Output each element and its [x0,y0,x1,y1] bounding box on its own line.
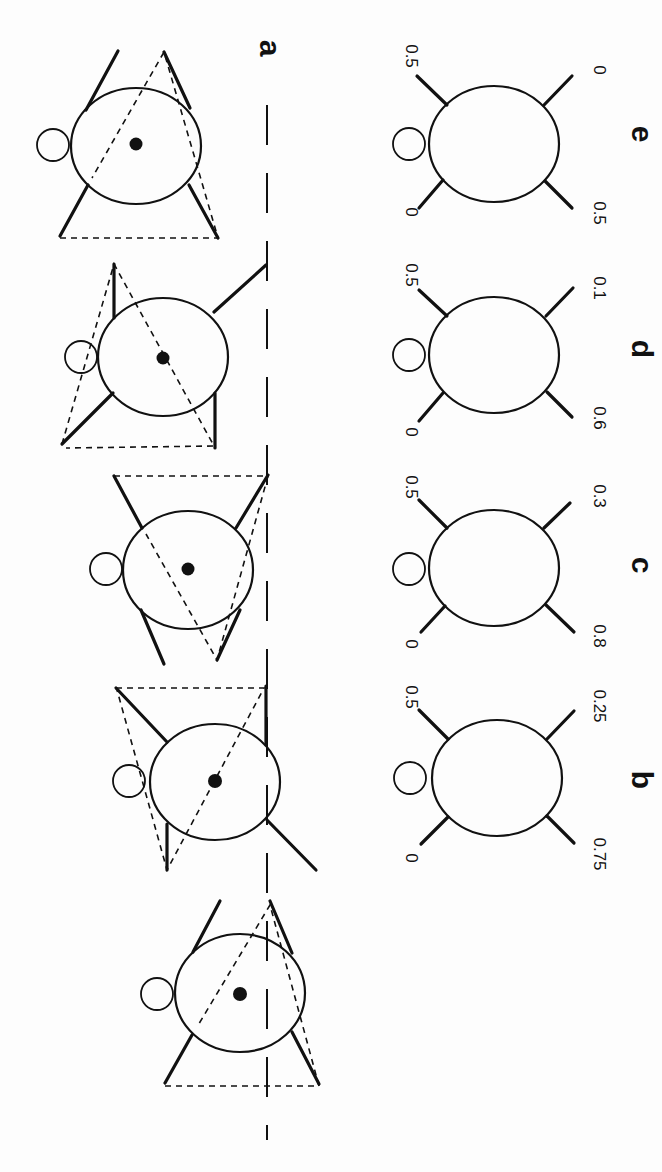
head-circle [394,762,426,794]
leg-value: 0 [402,639,421,648]
leg-value: 0.5 [590,201,609,225]
leg [292,1032,319,1084]
head-circle [393,128,425,160]
center-of-mass-dot [130,138,143,151]
head-circle [65,341,97,373]
support-triangle [116,688,264,870]
leg [547,711,574,739]
head-circle [37,129,69,161]
leg-value: 0.8 [590,624,609,648]
panel-c: 0.5 0 0.3 0.8 c [393,475,659,649]
leg [546,288,573,316]
leg [547,816,574,843]
posture-5 [141,901,319,1086]
leg-value: 0 [402,207,421,216]
posture-2 [62,264,266,448]
leg [86,51,118,110]
center-of-mass-dot [233,987,247,1001]
panel-label-b: b [626,771,659,789]
leg [114,476,142,528]
head-circle [393,339,425,371]
leg [419,290,447,316]
leg [421,817,448,844]
head-circle [113,765,145,797]
leg [545,181,572,208]
center-of-mass-dot [182,563,195,576]
leg-value: 0.5 [402,44,421,68]
head-circle [393,553,425,585]
leg-value: 0 [402,427,421,436]
leg [214,265,266,312]
leg [544,76,572,105]
leg-value: 0.5 [402,263,421,287]
posture-1 [37,51,218,238]
panel-d: 0.5 0 0.1 0.6 d [393,263,659,437]
posture-3 [90,475,268,664]
leg [165,1035,192,1083]
panel-label-d: d [626,340,659,358]
leg [419,500,447,528]
leg [547,392,572,417]
leg [236,475,268,528]
leg [419,180,443,208]
panel-label-e: e [626,126,659,143]
leg [193,901,220,952]
leg [116,688,167,742]
leg [419,393,443,421]
body-ellipse [432,720,562,836]
body-ellipse [429,510,559,626]
leg-value: 0.75 [590,837,609,870]
leg [189,185,218,238]
leg-value: 0.5 [402,475,421,499]
leg [419,710,448,739]
posture-4 [113,686,316,870]
body-ellipse [429,297,559,413]
body-ellipse [429,86,559,202]
leg-value: 0 [402,853,421,862]
leg [421,606,445,632]
leg [267,820,316,870]
leg-value: 0.5 [402,685,421,709]
leg [546,605,574,632]
leg-value: 0.3 [590,484,609,508]
leg-value: 0.6 [590,406,609,430]
leg [141,610,164,664]
leg [544,503,570,528]
panel-label-a: a [254,40,287,57]
leg-value: 0.1 [590,276,609,300]
head-circle [141,978,173,1010]
panel-b: 0.5 0 0.25 0.75 b [394,685,659,870]
leg [417,76,447,105]
leg-value: 0.25 [590,689,609,722]
head-circle [90,553,122,585]
panel-e: 0.5 0 0 0.5 e [393,44,659,225]
figure-canvas: a [0,0,662,1172]
leg [60,185,88,236]
panel-a: a [37,40,319,1140]
panel-label-c: c [626,557,659,574]
leg-value: 0 [590,65,609,74]
